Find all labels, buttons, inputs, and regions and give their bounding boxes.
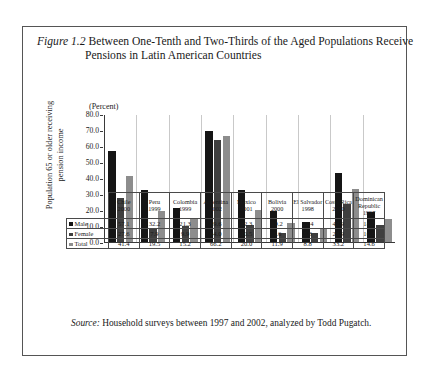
table-cell: 7.9 — [139, 228, 170, 238]
table-header-peru: Peru1999 — [139, 193, 170, 219]
country-name: Chile — [109, 198, 139, 205]
country-name: Colombia — [170, 198, 200, 205]
table-header-row: Chile2000Peru1999Colombia1999Argentina20… — [67, 193, 385, 219]
legend-label: Female — [75, 230, 94, 237]
country-year: 2000 — [262, 205, 292, 212]
table-cell: 57.1 — [108, 218, 139, 228]
figure-number: Figure 1.2 — [37, 35, 89, 48]
legend-row-total: Total — [67, 239, 109, 249]
table-header-dominican-republic: Dominican Republic1997 — [354, 193, 385, 219]
bar-total — [385, 219, 393, 242]
table-cell: 69.6 — [200, 218, 231, 228]
table-cell: 42.9 — [323, 218, 354, 228]
table-row: Total41.419.515.266.220.011.98.833.214.6 — [67, 239, 385, 249]
legend-label: Male — [75, 220, 88, 227]
table-cell: 8.8 — [292, 239, 323, 249]
table-cell: 15.2 — [170, 239, 201, 249]
table-cell: 21.3 — [170, 218, 201, 228]
table-cell: 12.4 — [292, 218, 323, 228]
figure-frame: Figure 1.2Between One-Tenth and Two-Thir… — [22, 26, 407, 356]
table-cell: 27.6 — [108, 228, 139, 238]
table-cell: 5.6 — [262, 228, 293, 238]
country-year: 2001 — [232, 205, 262, 212]
source-note: Source: Household surveys between 1997 a… — [71, 317, 389, 329]
table-cell: 18.7 — [354, 218, 385, 228]
table-cell: 64.0 — [200, 228, 231, 238]
table-cell: 14.6 — [354, 239, 385, 249]
data-table: Chile2000Peru1999Colombia1999Argentina20… — [66, 192, 385, 249]
table-header-argentina: Argentina2002 — [200, 193, 231, 219]
country-name: Dominican Republic — [354, 195, 384, 209]
table-cell: 32.2 — [139, 218, 170, 228]
table-cell: 19.5 — [139, 239, 170, 249]
legend-swatch-male-icon — [69, 222, 73, 226]
y-axis-tick-mark — [100, 147, 103, 148]
table-cell: 10.6 — [354, 228, 385, 238]
figure-title: Figure 1.2Between One-Tenth and Two-Thir… — [37, 35, 430, 62]
country-name: Argentina — [201, 198, 231, 205]
y-axis-tick-label: 70.0 — [86, 127, 99, 135]
y-axis-tick-mark — [100, 163, 103, 164]
country-year: 1999 — [170, 205, 200, 212]
table-cell: 33.2 — [323, 239, 354, 249]
country-name: Bolivia — [262, 198, 292, 205]
y-axis-tick-mark — [100, 115, 103, 116]
table-cell: 9.9 — [170, 228, 201, 238]
table-header-bolivia: Bolivia2000 — [262, 193, 293, 219]
legend-row-female: Female — [67, 228, 109, 238]
country-year: 1998 — [293, 205, 323, 212]
legend-row-male: Male — [67, 218, 109, 228]
table-cell: 19.2 — [262, 218, 293, 228]
table-cell: 23.9 — [323, 228, 354, 238]
y-axis-tick-label: 40.0 — [86, 175, 99, 183]
country-name: Peru — [140, 198, 170, 205]
table-header-costa-rica: Costa Rica2000 — [323, 193, 354, 219]
table-cell: 20.0 — [231, 239, 262, 249]
country-name: Mexico — [232, 198, 262, 205]
source-label: Source: — [71, 318, 100, 328]
country-year: 1997 — [354, 209, 384, 216]
y-axis-tick-label: 80.0 — [86, 111, 99, 119]
y-axis-tick-mark — [100, 179, 103, 180]
table-header-chile: Chile2000 — [108, 193, 139, 219]
table-cell: 11.9 — [262, 239, 293, 249]
country-year: 1999 — [140, 205, 170, 212]
table-cell: 10.5 — [231, 228, 262, 238]
table-header-el-salvador: El Salvador1998 — [292, 193, 323, 219]
table-corner-cell — [67, 193, 109, 219]
table-row: Female27.67.99.964.010.55.65.823.910.6 — [67, 228, 385, 238]
source-text: Household surveys between 1997 and 2002,… — [102, 318, 371, 328]
country-name: Costa Rica — [324, 198, 354, 205]
table-body: Male57.132.221.369.632.319.212.442.918.7… — [67, 218, 385, 249]
country-name: El Salvador — [293, 198, 323, 205]
legend-label: Total — [75, 240, 88, 247]
table-header-mexico: Mexico2001 — [231, 193, 262, 219]
y-axis-tick-mark — [100, 131, 103, 132]
country-year: 2000 — [109, 205, 139, 212]
table-cell: 66.2 — [200, 239, 231, 249]
table-header-colombia: Colombia1999 — [170, 193, 201, 219]
figure-title-text: Between One-Tenth and Two-Thirds of the … — [85, 35, 413, 62]
legend-swatch-female-icon — [69, 233, 73, 237]
table-row: Male57.132.221.369.632.319.212.442.918.7 — [67, 218, 385, 228]
y-axis-title: Population 65 or older receiving pension… — [44, 94, 68, 216]
legend-swatch-total-icon — [69, 243, 73, 247]
table-cell: 5.8 — [292, 228, 323, 238]
country-year: 2000 — [324, 205, 354, 212]
y-axis-tick-label: 50.0 — [86, 159, 99, 167]
table-cell: 32.3 — [231, 218, 262, 228]
y-axis-tick-label: 60.0 — [86, 143, 99, 151]
country-year: 2002 — [201, 205, 231, 212]
table-cell: 41.4 — [108, 239, 139, 249]
